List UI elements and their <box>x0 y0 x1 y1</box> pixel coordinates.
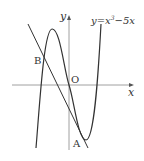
cubic-curve <box>36 24 101 148</box>
point-b-label: B <box>34 55 41 66</box>
equation-label: y=x3−5x <box>90 14 135 26</box>
equation-prefix: y=x <box>90 15 111 26</box>
x-axis-label: x <box>128 86 135 99</box>
graph-diagram: y x O B A y=x3−5x <box>0 0 144 161</box>
y-axis-label: y <box>59 10 67 23</box>
equation-suffix: −5x <box>115 15 136 26</box>
point-a-label: A <box>72 138 81 149</box>
y-axis-arrow-icon <box>67 15 71 20</box>
origin-label: O <box>71 74 79 85</box>
